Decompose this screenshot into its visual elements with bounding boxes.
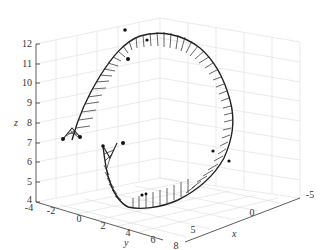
y-axis-label: y [123,237,129,248]
trajectory [63,33,233,208]
svg-text:8: 8 [174,240,179,250]
svg-text:5: 5 [27,176,32,187]
svg-text:-2: -2 [47,205,55,216]
svg-text:10: 10 [22,77,32,88]
svg-text:5: 5 [191,224,196,235]
svg-text:2: 2 [101,220,106,231]
svg-text:6: 6 [151,234,156,245]
y-tick-labels: -4 -2 0 2 4 6 8 [25,202,179,250]
svg-text:0: 0 [77,213,82,224]
svg-text:8: 8 [27,117,32,128]
svg-text:9: 9 [27,97,32,108]
svg-text:-4: -4 [25,202,33,213]
svg-text:-5: -5 [306,189,314,200]
3d-trajectory-plot: 12 11 10 9 8 7 6 5 4 -4 -2 0 2 4 6 8 5 0… [0,0,326,250]
x-axis-line [185,198,300,242]
svg-text:12: 12 [22,38,32,49]
svg-text:11: 11 [22,58,32,69]
z-axis-label: z [13,117,18,128]
svg-text:0: 0 [250,207,255,218]
z-tick-labels: 12 11 10 9 8 7 6 5 4 [22,38,32,205]
svg-text:7: 7 [27,137,32,148]
svg-text:6: 6 [27,156,32,167]
x-axis-label: x [231,228,237,239]
